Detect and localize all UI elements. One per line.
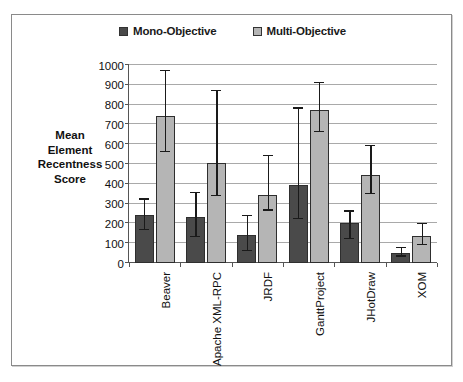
error-bar-line xyxy=(319,83,320,133)
error-bar-cap-upper xyxy=(263,155,273,156)
error-bar-cap-lower xyxy=(417,244,427,245)
legend-label-multi-objective: Multi-Objective xyxy=(267,25,346,37)
y-tick-label: 600 xyxy=(105,139,124,151)
error-bar-cap-lower xyxy=(365,193,375,194)
legend-swatch-icon-mono-objective xyxy=(119,27,128,36)
x-tick-mark xyxy=(386,263,387,267)
error-bar-cap-upper xyxy=(417,223,427,224)
x-axis-category-label: Beaver xyxy=(160,272,172,308)
x-axis-category-label: GanttProject xyxy=(314,272,326,336)
chart-legend: Mono-Objective Multi-Objective xyxy=(12,25,453,37)
chart-frame: Mono-Objective Multi-Objective Mean Elem… xyxy=(11,14,452,366)
error-bar-line xyxy=(268,156,269,210)
bar-group: JHotDraw xyxy=(334,65,385,263)
error-bar-cap-upper xyxy=(211,90,221,91)
x-tick-mark xyxy=(334,263,335,267)
error-bar-cap-upper xyxy=(396,247,406,248)
error-bar-line xyxy=(195,193,196,238)
y-tick-label: 700 xyxy=(105,119,124,131)
error-bar-line xyxy=(216,91,217,196)
x-tick-mark xyxy=(437,263,438,267)
y-axis-title-line-4: Score xyxy=(32,172,108,187)
bar-group: Beaver xyxy=(129,65,180,263)
bar-multi-objective xyxy=(310,110,329,263)
y-tick-label: 0 xyxy=(118,258,124,270)
x-tick-mark xyxy=(283,263,284,267)
error-bar-cap-lower xyxy=(263,209,273,210)
error-bar-cap-upper xyxy=(314,82,324,83)
x-axis-category-label: JRDF xyxy=(262,272,274,301)
bar-group: XOM xyxy=(386,65,437,263)
error-bar-cap-upper xyxy=(242,215,252,216)
error-bar-cap-lower xyxy=(344,238,354,239)
error-bar-cap-lower xyxy=(242,250,252,251)
y-tick-label: 100 xyxy=(105,238,124,250)
x-tick-mark xyxy=(180,263,181,267)
y-tick-label: 400 xyxy=(105,178,124,190)
error-bar-line xyxy=(144,200,145,231)
error-bar-line xyxy=(370,146,371,194)
error-bar-cap-lower xyxy=(293,218,303,219)
error-bar-line xyxy=(298,109,299,220)
x-tick-mark xyxy=(232,263,233,267)
bar-group: Apache XML-RPC xyxy=(180,65,231,263)
error-bar-cap-upper xyxy=(365,145,375,146)
y-axis-title-line-2: Element xyxy=(32,143,108,158)
error-bar-line xyxy=(165,71,166,152)
error-bar-cap-lower xyxy=(396,255,406,256)
error-bar-line xyxy=(422,224,423,245)
y-tick-label: 500 xyxy=(105,159,124,171)
y-axis-title-line-3: Recentness xyxy=(32,157,108,172)
plot-area: 01002003004005006007008009001000 BeaverA… xyxy=(129,65,437,263)
y-axis-title: Mean Element Recentness Score xyxy=(32,128,108,186)
error-bar-cap-lower xyxy=(160,151,170,152)
bar-group: JRDF xyxy=(232,65,283,263)
error-bar-cap-lower xyxy=(139,229,149,230)
y-tick-label: 200 xyxy=(105,218,124,230)
x-axis-category-label: Apache XML-RPC xyxy=(211,272,223,366)
y-tick-label: 300 xyxy=(105,198,124,210)
error-bar-cap-upper xyxy=(190,192,200,193)
legend-entry-multi-objective: Multi-Objective xyxy=(253,25,346,37)
bar-group: GanttProject xyxy=(283,65,334,263)
error-bar-line xyxy=(247,216,248,251)
error-bar-cap-lower xyxy=(190,236,200,237)
error-bar-cap-upper xyxy=(293,107,303,108)
legend-entry-mono-objective: Mono-Objective xyxy=(119,25,216,37)
x-axis-category-label: JHotDraw xyxy=(365,272,377,322)
legend-label-mono-objective: Mono-Objective xyxy=(133,25,216,37)
error-bar-line xyxy=(349,212,350,240)
error-bar-cap-lower xyxy=(211,195,221,196)
legend-swatch-icon-multi-objective xyxy=(253,27,262,36)
error-bar-cap-upper xyxy=(139,198,149,199)
error-bar-cap-upper xyxy=(344,210,354,211)
y-tick-label: 800 xyxy=(105,99,124,111)
y-tick-label: 1000 xyxy=(98,60,124,72)
y-tick-label: 900 xyxy=(105,79,124,91)
error-bar-cap-upper xyxy=(160,70,170,71)
error-bar-cap-lower xyxy=(314,131,324,132)
y-axis-title-line-1: Mean xyxy=(32,128,108,143)
x-axis-category-label: XOM xyxy=(416,272,428,298)
x-tick-mark xyxy=(129,263,130,267)
